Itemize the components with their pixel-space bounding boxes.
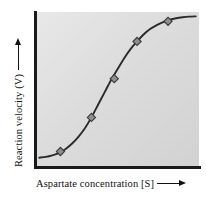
x-axis-label-text: Aspartate concentration [S]	[36, 178, 154, 189]
y-axis-label-text: Reaction velocity (V)	[13, 74, 24, 167]
arrow-up-icon	[14, 36, 22, 70]
plot-area	[36, 12, 199, 167]
data-point-group	[56, 17, 172, 155]
sigmoid-curve	[39, 16, 195, 157]
x-axis-line	[34, 166, 201, 169]
x-axis-label: Aspartate concentration [S]	[36, 175, 206, 191]
y-axis-label: Reaction velocity (V)	[9, 7, 27, 167]
data-point-marker	[110, 75, 118, 83]
arrow-right-icon	[157, 179, 187, 187]
sigmoid-kinetics-figure: Aspartate concentration [S] Reaction vel…	[0, 0, 206, 200]
plot-canvas	[36, 12, 199, 167]
data-point-marker	[87, 113, 95, 121]
y-axis-line	[34, 11, 37, 169]
